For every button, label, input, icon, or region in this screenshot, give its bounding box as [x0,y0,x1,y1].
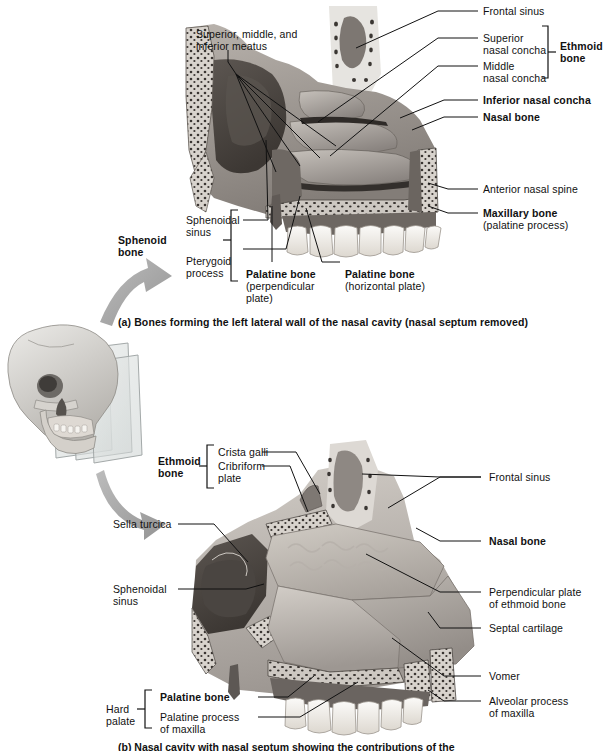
label-ethmoid-bone-a: Ethmoid bone [560,40,603,64]
skull-illustration [8,325,142,463]
caption-panel-b: (b) Nasal cavity with nasal septum showi… [118,741,458,751]
label-palatine-bone-perpendicular-sub: (perpendicular plate) [246,280,315,304]
label-septal-cartilage: Septal cartilage [489,622,563,634]
label-alveolar-process: Alveolar process of maxilla [489,695,568,719]
label-frontal-sinus-a: Frontal sinus [483,5,544,17]
label-cribriform-plate: Cribriform plate [218,460,265,484]
label-perpendicular-plate: Perpendicular plate of ethmoid bone [489,586,581,610]
label-sphenoid-bone: Sphenoid bone [118,234,167,258]
panel-b-illustration [192,440,474,735]
label-maxillary-bone-sub: (palatine process) [483,219,568,231]
label-pterygoid-process: Pterygoid process [186,255,231,279]
label-ethmoid-bone-b: Ethmoid bone [158,455,201,479]
label-palatine-bone-horizontal-sub: (horizontal plate) [345,280,425,292]
label-hard-palate: Hard palate [106,703,135,727]
label-middle-nasal-concha: Middle nasal concha [483,60,546,84]
label-palatine-bone-perpendicular: Palatine bone [246,268,316,280]
caption-panel-a: (a) Bones forming the left lateral wall … [118,316,528,328]
label-sphenoidal-sinus-a: Sphenoidal sinus [186,214,240,238]
label-anterior-nasal-spine: Anterior nasal spine [483,183,578,195]
sagittal-section-plane [52,343,142,463]
label-superior-nasal-concha: Superior nasal concha [483,32,546,56]
label-frontal-sinus-b: Frontal sinus [489,471,550,483]
label-meatus: Superior, middle, and inferior meatus [196,28,297,52]
label-palatine-bone-horizontal: Palatine bone [345,268,415,280]
label-crista-galli: Crista galli [218,446,268,458]
label-palatine-process-of-maxilla: Palatine process of maxilla [160,711,239,735]
label-inferior-nasal-concha: Inferior nasal concha [483,94,591,106]
leader-lines [178,11,481,717]
label-sella-turcica: Sella turcica [113,518,172,530]
label-sphenoidal-sinus-b: Sphenoidal sinus [113,583,167,607]
label-maxillary-bone: Maxillary bone [483,207,557,219]
label-nasal-bone-a: Nasal bone [483,111,540,123]
label-nasal-bone-b: Nasal bone [489,535,546,547]
label-vomer: Vomer [489,670,520,682]
label-palatine-bone-b: Palatine bone [160,691,230,703]
